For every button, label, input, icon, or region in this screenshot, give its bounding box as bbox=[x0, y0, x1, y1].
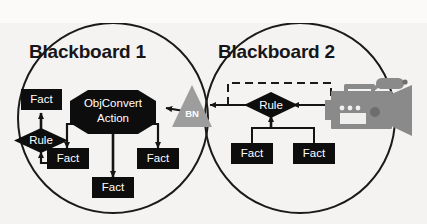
edge-facts-join-bb2 bbox=[252, 128, 314, 143]
node-bb1-fact-right[interactable] bbox=[137, 148, 179, 169]
node-bb1-fact-bottom[interactable] bbox=[92, 177, 134, 198]
node-bb1-fact-top[interactable] bbox=[21, 89, 62, 110]
node-bb2-fact-right[interactable] bbox=[293, 143, 335, 164]
diagram-svg bbox=[0, 0, 427, 224]
node-bb2-rule[interactable] bbox=[244, 92, 298, 118]
node-bb1-action[interactable] bbox=[70, 90, 156, 134]
node-bb1-fact-left[interactable] bbox=[47, 148, 89, 169]
video-camera-icon bbox=[325, 78, 412, 136]
diagram-canvas: Blackboard 1 Blackboard 2 Fact Rule ObjC… bbox=[0, 0, 427, 224]
node-bb2-fact-left[interactable] bbox=[231, 143, 273, 164]
